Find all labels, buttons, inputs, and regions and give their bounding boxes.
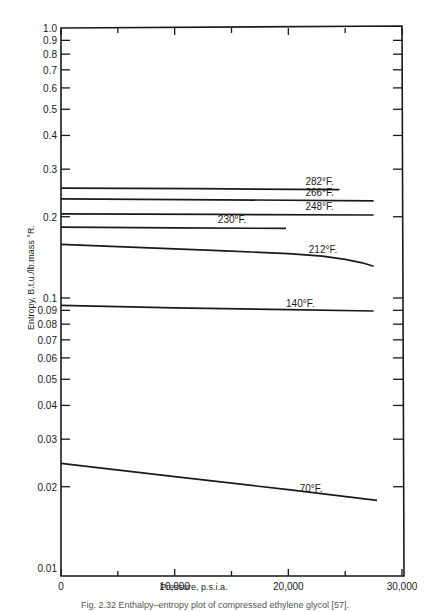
series-label: 140°F. — [286, 298, 314, 309]
y-tick-label: 0.02 — [38, 482, 58, 493]
series-label: 266°F. — [305, 187, 333, 198]
figure-caption: Fig. 2.32 Enthalpy–entropy plot of compr… — [0, 600, 430, 610]
y-tick-label: 0.3 — [43, 164, 57, 175]
series-label: 282°F. — [305, 176, 333, 187]
x-tick-label: 0 — [58, 581, 64, 592]
x-tick-label: 30,000 — [387, 581, 418, 592]
series-line — [61, 227, 286, 228]
series-line — [61, 188, 340, 189]
x-axis-title: Pressure, p.s.i.a. — [160, 582, 228, 592]
y-tick-label: 0.4 — [43, 130, 57, 141]
series-label: 70°F. — [300, 483, 323, 494]
y-tick-label: 0.1 — [43, 293, 57, 304]
y-tick-label: 0.09 — [38, 305, 58, 316]
series-lines: 282°F.266°F.248°F.230°F.212°F.140°F.70°F… — [61, 176, 377, 500]
y-tick-label: 1.0 — [43, 23, 57, 34]
y-tick-label: 0.06 — [38, 353, 58, 364]
y-tick-label: 0.07 — [38, 335, 58, 346]
y-tick-label: 0.6 — [43, 83, 57, 94]
y-tick-label: 0.08 — [38, 319, 58, 330]
series-label: 248°F. — [305, 201, 333, 212]
y-tick-label: 0.05 — [38, 374, 58, 385]
y-tick-label: 0.5 — [43, 104, 57, 115]
series-label: 230°F. — [218, 214, 246, 225]
series-line — [61, 463, 377, 500]
y-tick-label: 0.03 — [38, 434, 58, 445]
y-axis-title: Entropy, B.t.u./lb.mass °R. — [26, 225, 36, 330]
series-label: 212°F. — [309, 244, 337, 255]
y-tick-label: 0.2 — [43, 212, 57, 223]
x-tick-label: 20,000 — [273, 581, 304, 592]
y-tick-label: 0.7 — [43, 65, 57, 76]
entropy-pressure-chart: 010,00020,00030,000 1.00.90.80.70.60.50.… — [0, 0, 430, 612]
y-tick-label: 0.8 — [43, 49, 57, 60]
plot-frame — [61, 26, 404, 576]
plot-border — [61, 26, 404, 576]
series-line — [61, 305, 374, 311]
y-axis-ticks: 1.00.90.80.70.60.50.40.30.20.10.090.080.… — [38, 23, 403, 574]
y-tick-label: 0.9 — [43, 35, 57, 46]
y-tick-label: 0.04 — [38, 400, 58, 411]
y-tick-label: 0.01 — [38, 563, 58, 574]
x-axis-ticks: 010,00020,00030,000 — [58, 28, 418, 592]
